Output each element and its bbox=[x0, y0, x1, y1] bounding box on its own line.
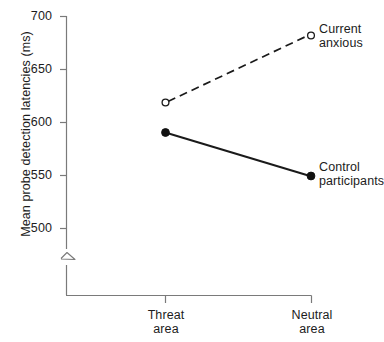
y-axis-title-text: Mean probe detection latencies (ms) bbox=[19, 19, 33, 249]
series-line-control-participants bbox=[167, 133, 310, 176]
data-point-current-anxious-neutral bbox=[308, 32, 315, 39]
y-tick-label-550: 550 bbox=[6, 168, 52, 183]
data-point-control-participants-threat bbox=[162, 129, 170, 137]
series-label-current-anxious-line1: Current bbox=[319, 22, 361, 37]
line-chart-figure: Mean probe detection latencies (ms) 700 … bbox=[0, 0, 384, 342]
x-tick-label-neutral-line2: area bbox=[262, 322, 362, 337]
series-line-current-anxious bbox=[168, 36, 308, 102]
y-axis-title: Mean probe detection latencies (ms) bbox=[19, 19, 39, 249]
y-tick-label-500: 500 bbox=[6, 221, 52, 236]
data-point-current-anxious-threat bbox=[162, 99, 169, 106]
series-label-control-participants-line2: participants bbox=[319, 174, 384, 189]
x-tick-label-threat-line1: Threat bbox=[116, 308, 216, 323]
y-tick-label-700: 700 bbox=[6, 9, 52, 24]
series-label-current-anxious-line2: anxious bbox=[319, 36, 363, 51]
data-point-control-participants-neutral bbox=[307, 172, 315, 180]
x-tick-label-neutral-line1: Neutral bbox=[262, 308, 362, 323]
axis-break-icon bbox=[61, 253, 75, 260]
y-tick-label-650: 650 bbox=[6, 62, 52, 77]
y-tick-label-600: 600 bbox=[6, 115, 52, 130]
series-label-control-participants-line1: Control bbox=[319, 160, 360, 175]
x-tick-label-threat-line2: area bbox=[116, 322, 216, 337]
